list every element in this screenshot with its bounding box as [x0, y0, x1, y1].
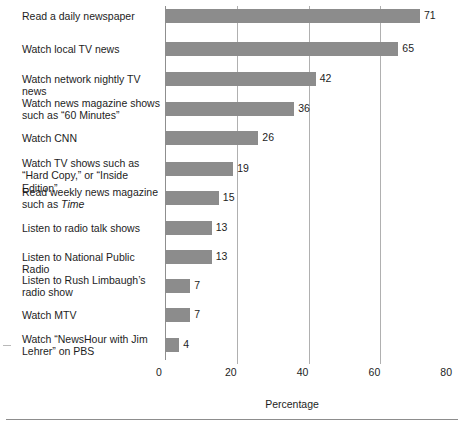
bar-value-label: 7	[194, 307, 200, 321]
bar	[165, 338, 179, 352]
bar-value-label: 71	[424, 8, 436, 22]
gridline-20	[237, 6, 238, 360]
bar	[165, 72, 316, 86]
bar-value-label: 19	[237, 161, 249, 175]
bar	[165, 191, 219, 205]
bar-chart: Read a daily newspaperWatch local TV new…	[0, 0, 464, 429]
category-label: Listen to radio talk shows	[22, 222, 164, 234]
bar-value-label: 7	[194, 278, 200, 292]
x-tick-mark-20	[237, 354, 238, 364]
bar	[165, 131, 258, 145]
gridline-60	[380, 6, 381, 360]
x-tick-mark-40	[309, 354, 310, 364]
bar	[165, 162, 233, 176]
bar-value-label: 15	[223, 190, 235, 204]
category-label: Watch local TV news	[22, 43, 164, 55]
bar	[165, 102, 294, 116]
bar-value-label: 13	[216, 249, 228, 263]
x-tick-mark-60	[380, 354, 381, 364]
category-label: Read weekly news magazinesuch as Time	[22, 186, 164, 211]
x-tick-label-80: 80	[426, 366, 464, 378]
bar-value-label: 13	[216, 220, 228, 234]
category-label: Watch MTV	[22, 309, 164, 321]
bar	[165, 308, 190, 322]
bar	[165, 279, 190, 293]
category-label: Watch CNN	[22, 132, 164, 144]
y-axis-line	[165, 6, 166, 360]
bar-value-label: 65	[402, 41, 414, 55]
bar-value-label: 4	[183, 337, 189, 351]
margin-artifact-dash	[3, 345, 11, 346]
bar	[165, 250, 212, 264]
bar	[165, 42, 398, 56]
bar-value-label: 42	[320, 71, 332, 85]
category-label: Listen to National Public Radio	[22, 251, 164, 276]
category-label: Read a daily newspaper	[22, 10, 164, 22]
bar	[165, 221, 212, 235]
category-label: Watch news magazine showssuch as “60 Min…	[22, 97, 164, 122]
bar	[165, 9, 420, 23]
plot-area: 716542362619151313774	[165, 6, 453, 360]
category-label: Watch network nightly TV news	[22, 73, 164, 98]
bar-value-label: 26	[262, 130, 274, 144]
bottom-rule	[6, 419, 458, 420]
bar-value-label: 36	[298, 101, 310, 115]
x-tick-label-0: 0	[139, 366, 179, 378]
x-axis-title: Percentage	[0, 398, 464, 410]
x-tick-label-40: 40	[283, 366, 323, 378]
x-tick-label-60: 60	[354, 366, 394, 378]
x-tick-label-20: 20	[211, 366, 251, 378]
category-label: Listen to Rush Limbaugh’sradio show	[22, 274, 164, 299]
x-axis-title-text: Percentage	[265, 398, 319, 410]
category-label: Watch “NewsHour with JimLehrer” on PBS	[22, 333, 164, 358]
gridline-40	[309, 6, 310, 360]
